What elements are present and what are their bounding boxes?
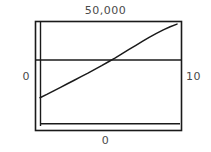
- data-series-line: [40, 24, 177, 98]
- plot-area: [0, 0, 211, 152]
- plot-outer-frame: [36, 22, 182, 131]
- chart-figure: 50,000 0 10 0: [0, 0, 211, 152]
